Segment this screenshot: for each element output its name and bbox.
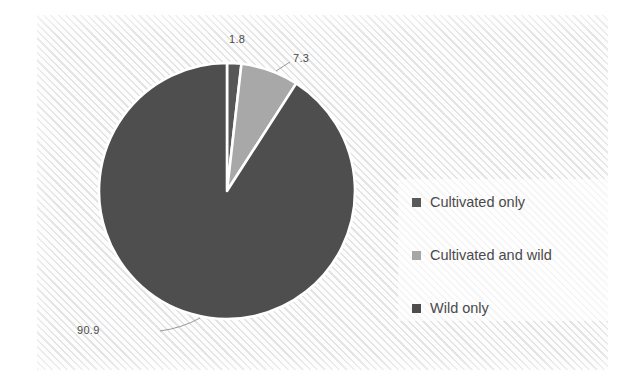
pie-data-label-wild-only: 90.9 — [77, 324, 100, 336]
legend-swatch-icon-cultivated-only — [412, 198, 421, 207]
legend-swatch-icon-cultivated-and-wild — [412, 251, 421, 260]
legend-swatch-icon-wild-only — [412, 304, 421, 313]
pie-data-label-cultivated-only: 1.8 — [229, 33, 245, 45]
legend-item-wild-only[interactable]: Wild only — [412, 300, 489, 316]
legend-label-wild-only: Wild only — [430, 300, 489, 316]
leader-line-slice-2 — [160, 318, 200, 331]
pie-chart-figure: 1.8 7.3 90.9 Cultivated only Cultivated … — [0, 0, 642, 386]
legend-label-cultivated-only: Cultivated only — [430, 194, 525, 210]
leader-line-slice-1 — [276, 62, 290, 71]
pie-slices-group — [99, 63, 355, 319]
pie-slice-wild-only[interactable] — [99, 63, 355, 319]
chart-legend: Cultivated only Cultivated and wild Wild… — [398, 179, 608, 321]
pie-data-label-cultivated-and-wild: 7.3 — [293, 52, 309, 64]
legend-item-cultivated-only[interactable]: Cultivated only — [412, 194, 525, 210]
legend-label-cultivated-and-wild: Cultivated and wild — [430, 247, 552, 263]
legend-item-cultivated-and-wild[interactable]: Cultivated and wild — [412, 247, 552, 263]
